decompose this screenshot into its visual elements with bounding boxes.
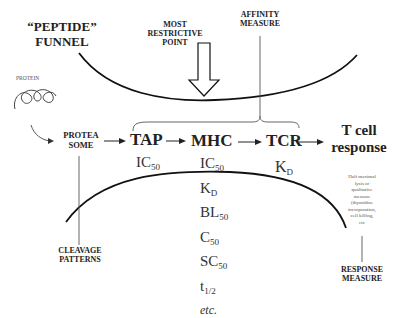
mhc-measure-etc: etc. [200,301,228,318]
tap-measure-ic50: IC50 [136,154,160,172]
arrow-tap-mhc [179,138,186,144]
affinity-line-1: AFFINITY [228,10,292,19]
proteasome-node: PROTEA SOME [58,131,104,151]
affinity-brace [133,116,299,131]
mhc-measure-ic50: IC50 [200,154,228,179]
affinity-measure-label: AFFINITY MEASURE [228,10,292,28]
mhc-measure-bl50: BL50 [200,203,228,228]
tcell-line-1: T cell [326,122,392,139]
arrow-proteasome-tap [119,138,126,144]
funnel-upper-curve [79,53,357,100]
affinity-line-2: MEASURE [228,19,292,28]
response-measure-line-1: RESPONSE [332,265,392,274]
mhc-measure-c50: C50 [200,228,228,253]
title-line-2: FUNNEL [22,35,102,50]
response-measure-line-2: MEASURE [332,274,392,283]
most-restrictive-point-label: MOST RESTRICTIVE POINT [140,20,210,48]
mhc-measure-kd: KD [200,179,228,204]
arrow-mhc-tcr [255,139,262,145]
protein-to-proteasome-arrow [31,125,50,141]
mhc-measure-t-half: t1/2 [200,277,228,302]
tcr-measure-kd: KD [275,158,293,177]
protein-squiggle-icon [14,90,56,109]
tcr-node: TCR [266,131,302,151]
mhc-measure-sc50: SC50 [200,252,228,277]
cleavage-line-2: PATTERNS [48,255,112,264]
protein-label: PROTEIN [16,75,39,81]
mhc-node: MHC [191,131,233,151]
cleavage-patterns-label: CLEAVAGE PATTERNS [48,246,112,264]
restrictive-line-1: MOST [140,20,210,29]
mhc-measures-list: IC50 KD BL50 C50 SC50 t1/2 etc. [200,154,228,318]
title-line-1: “PEPTIDE” [22,20,102,35]
arrow-tcr-tcell [317,139,324,145]
restrictive-arrow-icon [189,43,219,96]
cleavage-line-1: CLEAVAGE [48,246,112,255]
proteasome-line-2: SOME [58,141,104,151]
tcell-response-node: T cell response [326,122,392,157]
tcell-line-2: response [326,139,392,156]
response-measure-label: RESPONSE MEASURE [332,265,392,283]
response-note: Half maximal lysis or qualitative measur… [338,174,386,226]
restrictive-line-2: RESTRICTIVE [140,29,210,38]
tap-node: TAP [130,130,163,150]
peptide-funnel-title: “PEPTIDE” FUNNEL [22,20,102,50]
restrictive-line-3: POINT [140,38,210,47]
